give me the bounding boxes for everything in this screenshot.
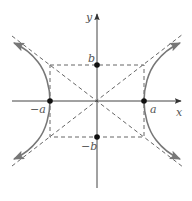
point-vertex-left bbox=[47, 98, 53, 104]
hyperbola-left-upper bbox=[14, 43, 50, 101]
label-a: a bbox=[150, 103, 157, 116]
label-neg-b: −b bbox=[81, 140, 97, 153]
y-axis-label: y bbox=[85, 11, 93, 24]
point-vertex-right bbox=[141, 98, 147, 104]
hyperbola-right-upper bbox=[144, 43, 180, 101]
x-axis-label: x bbox=[176, 106, 183, 119]
point-co-vertex-bottom bbox=[94, 134, 100, 140]
hyperbola-diagram: y x a −a b −b bbox=[0, 0, 192, 201]
label-neg-a: −a bbox=[30, 103, 46, 116]
label-b: b bbox=[88, 52, 95, 65]
